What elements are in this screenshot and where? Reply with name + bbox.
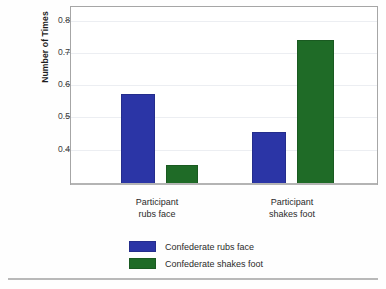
- y-tick-label: 0.4: [44, 145, 70, 154]
- x-axis-label-group-1-line-2: rubs face: [97, 208, 217, 220]
- legend-swatch-blue: [129, 241, 156, 252]
- plot-area: [70, 6, 378, 185]
- x-axis-label-group-1: Participant rubs face: [97, 196, 217, 220]
- x-axis-label-group-2-line-2: shakes foot: [232, 208, 352, 220]
- x-axis-label-group-2: Participant shakes foot: [232, 196, 352, 220]
- bar-chart-figure: Number of Times per Minute 0.40.50.60.70…: [0, 0, 386, 289]
- chart-legend: Confederate rubs face Confederate shakes…: [129, 238, 263, 272]
- footer-divider: [8, 278, 378, 280]
- x-axis-label-group-2-line-1: Participant: [232, 196, 352, 208]
- legend-label-1: Confederate rubs face: [165, 242, 254, 252]
- bar-shakes-foot-group-1: [166, 165, 198, 184]
- legend-item-confederate-shakes-foot: Confederate shakes foot: [129, 255, 263, 272]
- gridline: [71, 21, 377, 22]
- x-axis-label-group-1-line-1: Participant: [97, 196, 217, 208]
- legend-item-confederate-rubs-face: Confederate rubs face: [129, 238, 263, 255]
- bar-rubs-face-group-2: [252, 132, 286, 184]
- legend-swatch-green: [129, 258, 156, 269]
- y-tick-label: 0.8: [44, 16, 70, 25]
- bar-shakes-foot-group-2: [297, 40, 334, 184]
- y-tick-label: 0.7: [44, 48, 70, 57]
- y-axis-ticks: 0.40.50.60.70.8: [38, 0, 70, 185]
- legend-label-2: Confederate shakes foot: [165, 259, 263, 269]
- y-tick-label: 0.5: [44, 112, 70, 121]
- bar-rubs-face-group-1: [121, 94, 155, 184]
- y-tick-label: 0.6: [44, 80, 70, 89]
